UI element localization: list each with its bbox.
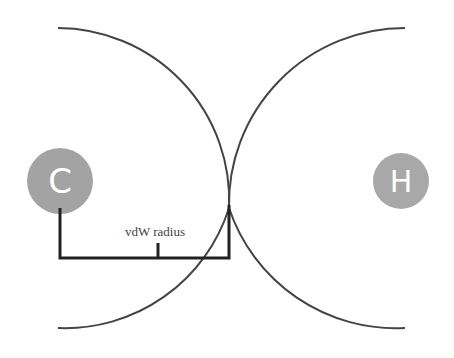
carbon-symbol: C	[48, 161, 72, 201]
carbon-atom: C	[27, 148, 93, 214]
hydrogen-symbol: H	[390, 164, 413, 199]
hydrogen-atom: H	[373, 153, 429, 209]
vdw-radius-diagram: C H vdW radius	[0, 0, 454, 358]
vdw-radius-label: vdW radius	[125, 224, 185, 239]
diagram-canvas: C H vdW radius	[0, 0, 454, 358]
